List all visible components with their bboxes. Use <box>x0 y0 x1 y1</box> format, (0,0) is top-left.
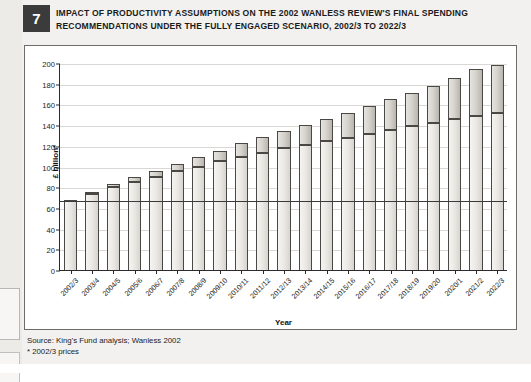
bar-column[interactable] <box>491 65 505 270</box>
x-axis-tick-label: 2004/5 <box>101 276 123 298</box>
x-axis-tick-label: 2020/1 <box>442 276 464 298</box>
y-axis-tick-label: 120 <box>42 142 55 151</box>
x-axis-tick-label: 2005/6 <box>122 276 144 298</box>
x-axis-tick-label: 2011/12 <box>248 276 272 300</box>
bar-column[interactable] <box>448 78 462 271</box>
reference-line <box>60 201 507 202</box>
chart-frame: £ billion* 020406080100120140160180200 2… <box>24 45 517 330</box>
bar-column[interactable] <box>341 113 355 270</box>
x-axis-tick-mark <box>476 270 477 274</box>
y-axis-tick-label: 60 <box>47 204 55 213</box>
y-axis-tick-mark <box>56 208 60 209</box>
bar-segment-base <box>469 116 483 270</box>
bar-segment-base <box>64 200 78 270</box>
bar-segment-base <box>427 123 441 270</box>
bar-column[interactable] <box>64 200 78 270</box>
bar-segment-base <box>128 182 142 270</box>
bar-segment-base <box>149 177 163 270</box>
bar-segment-productivity <box>171 164 185 171</box>
figure-title: IMPACT OF PRODUCTIVITY ASSUMPTIONS ON TH… <box>56 7 518 32</box>
bar-segment-productivity <box>341 113 355 138</box>
y-axis-tick-mark <box>56 84 60 85</box>
bar-column[interactable] <box>107 184 121 270</box>
bar-column[interactable] <box>192 157 206 270</box>
bar-segment-base <box>85 194 99 270</box>
y-axis-tick-label: 80 <box>47 184 55 193</box>
bar-column[interactable] <box>128 177 142 270</box>
bar-segment-base <box>107 187 121 270</box>
x-axis-tick-label: 2006/7 <box>143 276 165 298</box>
bar-segment-base <box>192 167 206 271</box>
bar-column[interactable] <box>405 93 419 270</box>
bar-column[interactable] <box>320 119 334 270</box>
bar-segment-productivity <box>192 157 206 166</box>
bar-column[interactable] <box>299 125 313 270</box>
gridline <box>60 64 507 65</box>
x-axis-tick-label: 2003/4 <box>79 276 101 298</box>
y-axis-tick-label: 0 <box>51 267 55 276</box>
bar-column[interactable] <box>171 164 185 270</box>
x-axis-tick-label: 2013/14 <box>290 276 315 301</box>
y-axis-tick-mark <box>56 188 60 189</box>
x-axis-tick-mark <box>284 270 285 274</box>
y-axis-tick-label: 200 <box>42 60 55 69</box>
x-axis-tick-mark <box>156 270 157 274</box>
bar-column[interactable] <box>384 99 398 270</box>
bar-segment-productivity <box>235 143 249 157</box>
bar-segment-base <box>491 113 505 270</box>
page-bottom-margin <box>0 364 531 373</box>
x-axis-tick-label: 2002/3 <box>58 276 80 298</box>
x-axis-tick-mark <box>113 270 114 274</box>
x-axis-tick-mark <box>327 270 328 274</box>
y-axis-tick-mark <box>56 271 60 272</box>
bar-segment-productivity <box>363 106 377 134</box>
bar-segment-productivity <box>277 131 291 148</box>
x-axis-tick-label: 2014/15 <box>311 276 336 301</box>
bar-column[interactable] <box>213 151 227 270</box>
bar-column[interactable] <box>363 106 377 270</box>
source-note: Source: King's Fund analysis; Wanless 20… <box>27 336 447 347</box>
bar-column[interactable] <box>256 137 270 270</box>
x-axis-tick-mark <box>369 270 370 274</box>
plot-area: £ billion* 020406080100120140160180200 2… <box>59 64 507 271</box>
x-axis-tick-mark <box>71 270 72 274</box>
y-axis-tick-label: 140 <box>42 122 55 131</box>
bar-segment-base <box>213 161 227 270</box>
x-axis-tick-mark <box>412 270 413 274</box>
x-axis-title: Year <box>275 318 292 327</box>
y-axis-tick-mark <box>56 229 60 230</box>
bar-segment-base <box>277 148 291 270</box>
figure-number-badge: 7 <box>23 5 50 32</box>
bar-column[interactable] <box>469 69 483 270</box>
x-axis-tick-label: 2022/3 <box>485 276 507 298</box>
y-axis-tick-mark <box>56 146 60 147</box>
y-axis-tick-mark <box>56 250 60 251</box>
x-axis-tick-mark <box>135 270 136 274</box>
x-axis-tick-label: 2015/16 <box>333 276 358 301</box>
bar-column[interactable] <box>427 86 441 270</box>
bar-column[interactable] <box>149 171 163 270</box>
bar-segment-productivity <box>405 93 419 126</box>
y-axis-tick-label: 100 <box>42 163 55 172</box>
bar-column[interactable] <box>85 192 99 270</box>
bar-segment-base <box>171 171 185 270</box>
x-axis-tick-mark <box>433 270 434 274</box>
bar-segment-productivity <box>491 65 505 113</box>
y-axis-tick-label: 160 <box>42 101 55 110</box>
bar-segment-base <box>299 145 313 270</box>
bar-segment-productivity <box>320 119 334 141</box>
bar-segment-base <box>363 134 377 270</box>
x-axis-tick-mark <box>220 270 221 274</box>
x-axis-tick-label: 2021/2 <box>463 276 485 298</box>
x-axis-tick-mark <box>305 270 306 274</box>
y-axis-tick-label: 20 <box>47 246 55 255</box>
x-axis-tick-mark <box>92 270 93 274</box>
y-axis-tick-mark <box>56 167 60 168</box>
x-axis-tick-mark <box>497 270 498 274</box>
y-axis-tick-label: 180 <box>42 80 55 89</box>
figure-footer: Source: King's Fund analysis; Wanless 20… <box>27 336 447 357</box>
x-axis-tick-mark <box>348 270 349 274</box>
adjacent-box-fragment-top <box>0 288 20 340</box>
bar-segment-productivity <box>213 151 227 161</box>
bar-column[interactable] <box>235 143 249 270</box>
